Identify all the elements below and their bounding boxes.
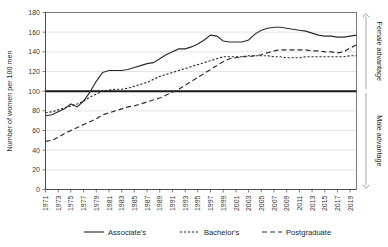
legend-label: Associate's <box>108 228 146 237</box>
x-tick-label: 2001 <box>233 195 240 211</box>
y-axis-title-text: Number of women per 100 men <box>5 50 14 151</box>
legend-label: Postgraduate <box>286 228 331 237</box>
x-tick-label: 1983 <box>118 195 125 211</box>
y-tick-label: 80 <box>32 107 40 114</box>
x-tick-label: 1973 <box>55 195 62 211</box>
x-tick-label: 2015 <box>321 195 328 211</box>
x-tick-label: 1971 <box>42 195 49 211</box>
y-axis: 020406080100120140160180 <box>28 9 45 193</box>
male-advantage-label: Male advantage <box>375 115 384 166</box>
y-tick-label: 120 <box>28 68 40 75</box>
x-tick-label: 1987 <box>144 195 151 211</box>
x-tick-label: 1981 <box>106 195 113 211</box>
x-tick-label: 1997 <box>207 195 214 211</box>
chart-legend: Associate'sBachelor'sPostgraduate <box>84 228 331 237</box>
x-axis: 1971197319751977197919811983198519871989… <box>42 190 356 212</box>
female-advantage-label: Female advantage <box>375 22 384 82</box>
y-tick-label: 140 <box>28 48 40 55</box>
x-tick-label: 1999 <box>220 195 227 211</box>
y-tick-label: 40 <box>32 147 40 154</box>
x-tick-label: 2007 <box>271 195 278 211</box>
male-advantage-annotation: Male advantage <box>363 93 384 188</box>
y-tick-label: 180 <box>28 9 40 16</box>
y-tick-label: 160 <box>28 29 40 36</box>
legend-label: Bachelor's <box>204 228 239 237</box>
x-tick-label: 2005 <box>258 195 265 211</box>
y-tick-label: 60 <box>32 127 40 134</box>
x-tick-label: 1991 <box>169 195 176 211</box>
y-axis-title: Number of women per 100 men <box>5 50 14 151</box>
x-tick-label: 1979 <box>93 195 100 211</box>
x-tick-label: 1995 <box>194 195 201 211</box>
x-tick-label: 2017 <box>334 195 341 211</box>
female-advantage-annotation: Female advantage <box>363 14 384 90</box>
x-tick-label: 2011 <box>296 195 303 210</box>
y-tick-label: 100 <box>28 88 40 95</box>
x-tick-label: 2009 <box>283 195 290 211</box>
y-tick-label: 20 <box>32 166 40 173</box>
series-bachelors <box>46 56 357 113</box>
x-tick-label: 2013 <box>309 195 316 211</box>
x-tick-label: 2003 <box>245 195 252 211</box>
x-tick-label: 1977 <box>80 195 87 211</box>
series-postgraduate <box>46 45 357 141</box>
x-tick-label: 2019 <box>347 195 354 211</box>
y-tick-label: 0 <box>36 186 40 193</box>
chart-figure: 020406080100120140160180 197119731975197… <box>0 0 388 247</box>
x-tick-label: 1985 <box>131 195 138 211</box>
x-tick-label: 1975 <box>67 195 74 211</box>
plot-frame <box>46 13 357 190</box>
x-tick-label: 1989 <box>156 195 163 211</box>
x-tick-label: 1993 <box>182 195 189 211</box>
